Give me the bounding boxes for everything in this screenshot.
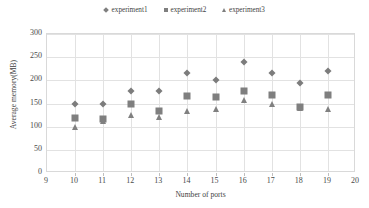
plot-area bbox=[46, 33, 355, 172]
x-axis-tick-label: 17 bbox=[259, 176, 283, 185]
legend-item-experiment2: experiment2 bbox=[164, 6, 207, 14]
gridline-vertical bbox=[159, 34, 160, 171]
x-axis-tick-label: 9 bbox=[34, 176, 58, 185]
x-axis-tick-label: 20 bbox=[343, 176, 367, 185]
gridline-horizontal bbox=[47, 34, 354, 35]
gridline-horizontal bbox=[47, 80, 354, 81]
x-axis-tick-label: 16 bbox=[231, 176, 255, 185]
chart-legend: experiment1 experiment2 experiment3 bbox=[0, 6, 369, 14]
gridline-vertical bbox=[328, 34, 329, 171]
x-axis-tick-label: 14 bbox=[174, 176, 198, 185]
gridline-vertical bbox=[216, 34, 217, 171]
x-axis-tick-label: 12 bbox=[118, 176, 142, 185]
gridline-vertical bbox=[103, 34, 104, 171]
gridline-vertical bbox=[300, 34, 301, 171]
x-axis-ticks: 91011121314151617181920 bbox=[46, 176, 355, 188]
legend-item-experiment1: experiment1 bbox=[104, 6, 147, 14]
y-axis-tick-label: 0 bbox=[2, 168, 42, 176]
legend-item-experiment3: experiment3 bbox=[222, 6, 264, 14]
gridline-vertical bbox=[272, 34, 273, 171]
gridline-vertical bbox=[187, 34, 188, 171]
x-axis-tick-label: 11 bbox=[90, 176, 114, 185]
x-axis-tick-label: 19 bbox=[315, 176, 339, 185]
gridline-horizontal bbox=[47, 104, 354, 105]
y-axis-title: Average memory(MB) bbox=[9, 35, 18, 155]
x-axis-tick-label: 15 bbox=[203, 176, 227, 185]
x-axis-title: Number of ports bbox=[46, 190, 355, 199]
gridline-horizontal bbox=[47, 57, 354, 58]
diamond-icon bbox=[103, 7, 109, 13]
gridline-vertical bbox=[131, 34, 132, 171]
x-axis-tick-label: 18 bbox=[287, 176, 311, 185]
legend-label-experiment1: experiment1 bbox=[112, 6, 148, 14]
gridline-vertical bbox=[75, 34, 76, 171]
legend-label-experiment2: experiment2 bbox=[171, 6, 207, 14]
square-icon bbox=[164, 8, 169, 13]
triangle-icon bbox=[222, 8, 226, 12]
legend-label-experiment3: experiment3 bbox=[229, 6, 265, 14]
gridline-vertical bbox=[244, 34, 245, 171]
gridline-horizontal bbox=[47, 127, 354, 128]
x-axis-tick-label: 10 bbox=[62, 176, 86, 185]
y-axis-ticks: 050100150200250300 bbox=[0, 33, 42, 172]
gridline-horizontal bbox=[47, 150, 354, 151]
scatter-chart: experiment1 experiment2 experiment3 0501… bbox=[0, 0, 369, 208]
x-axis-tick-label: 13 bbox=[146, 176, 170, 185]
